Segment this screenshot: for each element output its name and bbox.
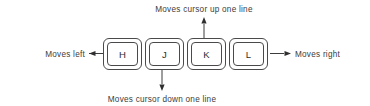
key-j-label: J (162, 49, 167, 60)
arrowhead-up (201, 17, 206, 24)
arrowhead-down (159, 85, 164, 92)
keyboard-movement-diagram: H J K L Moves cursor up one line Moves c… (0, 0, 370, 106)
key-h[interactable]: H (104, 39, 142, 70)
key-k-label: K (203, 49, 210, 60)
key-k[interactable]: K (188, 39, 226, 70)
connector-right (270, 51, 291, 56)
diagram-canvas: H J K L Moves cursor up one line Moves c… (0, 0, 370, 106)
connector-up (201, 17, 206, 38)
label-down: Moves cursor down one line (108, 95, 217, 104)
label-up: Moves cursor up one line (155, 5, 253, 14)
label-right: Moves right (295, 50, 341, 59)
connector-left (89, 51, 103, 56)
key-h-label: H (119, 49, 126, 60)
key-l[interactable]: L (230, 39, 268, 70)
connector-down (159, 70, 164, 91)
label-left: Moves left (45, 50, 85, 59)
arrowhead-left (89, 51, 96, 56)
key-l-label: L (246, 49, 251, 60)
arrowhead-right (285, 51, 292, 56)
key-j[interactable]: J (146, 39, 184, 70)
